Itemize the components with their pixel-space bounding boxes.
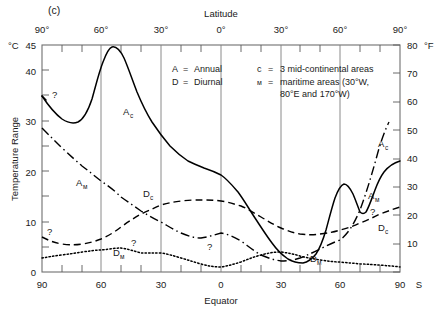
temperature-range-latitude-chart: (c) Latitude 90° 60° 30° 0° 30° 60° 90° …: [0, 0, 442, 313]
right-tick-label: 70: [407, 68, 418, 79]
bottom-tick-label: 60: [335, 279, 346, 290]
top-tick-label: 30°: [274, 24, 289, 35]
top-tick-label: 0°: [216, 24, 225, 35]
top-tick-label: 90°: [393, 24, 408, 35]
legend-equals: =: [183, 64, 188, 74]
uncertainty-marker-dc-left: ?: [47, 226, 52, 237]
uncertainty-marker-ac: ?: [52, 89, 57, 100]
uncertainty-marker-dm-mid: ?: [207, 241, 212, 252]
curve-label-base: D: [310, 253, 317, 264]
legend-label: Annual: [194, 64, 222, 74]
legend-label: maritime areas (30°W,: [280, 77, 369, 87]
bottom-axis-title: Equator: [204, 295, 237, 306]
left-tick-label: 10: [25, 217, 36, 228]
curve-label-base: D: [378, 222, 385, 233]
top-tick-label: 30°: [154, 24, 169, 35]
uncertainty-marker-dm-left: ?: [131, 237, 136, 248]
right-tick-label: 50: [407, 125, 418, 136]
legend-label: 3 mid-continental areas: [280, 64, 374, 74]
curve-label-base: D: [113, 247, 120, 258]
left-axis-title: Temperature Range: [9, 117, 20, 201]
curve-label-base: A: [123, 106, 130, 117]
legend-equals: =: [183, 77, 188, 87]
legend-equals: =: [268, 64, 273, 74]
uncertainty-marker-dc-right: ?: [370, 206, 375, 217]
curve-label-base: A: [76, 177, 83, 188]
top-tick-label: 60°: [94, 24, 109, 35]
curve-label-subscript: м: [83, 183, 88, 190]
bottom-tick-label: 90: [395, 279, 406, 290]
right-tick-label: 80: [407, 40, 418, 51]
right-axis-unit: °F: [424, 40, 434, 51]
panel-label: (c): [48, 4, 60, 16]
bottom-tick-label: 90: [37, 279, 48, 290]
right-tick-label: 30: [407, 181, 418, 192]
legend-equals: =: [268, 77, 273, 87]
bottom-tick-label: 30: [276, 279, 287, 290]
legend-continuation: 80°E and 170°W): [280, 89, 350, 99]
curve-label-subscript: м: [120, 253, 125, 260]
left-axis-unit: °C: [8, 40, 19, 51]
left-tick-label: 40: [25, 66, 36, 77]
curve-label-base: A: [378, 138, 385, 149]
bottom-tick-label: 30: [156, 279, 167, 290]
legend-label: Diurnal: [194, 77, 223, 87]
top-tick-label: 60°: [333, 24, 348, 35]
curve-label-base: D: [143, 188, 150, 199]
curve-label-base: A: [368, 190, 375, 201]
legend-symbol: м: [257, 79, 262, 86]
bottom-tick-label: 60: [96, 279, 107, 290]
right-tick-label: 20: [407, 210, 418, 221]
curve-label-subscript: м: [317, 259, 322, 266]
right-tick-label: 10: [407, 238, 418, 249]
left-tick-label: 30: [25, 116, 36, 127]
right-tick-label: 60: [407, 96, 418, 107]
left-tick-label: 0: [31, 267, 36, 278]
left-tick-label: 45: [25, 40, 36, 51]
left-tick-label: 20: [25, 167, 36, 178]
top-tick-label: 90°: [35, 24, 50, 35]
bottom-tick-label: 0: [218, 279, 223, 290]
curve-label-subscript: м: [375, 196, 380, 203]
legend-symbol: c: [257, 64, 262, 74]
legend-symbol: A: [172, 64, 178, 74]
top-axis-title: Latitude: [204, 8, 238, 19]
right-tick-label: 40: [407, 153, 418, 164]
hemisphere-label-south: S: [416, 279, 422, 290]
legend-symbol: D: [172, 77, 179, 87]
